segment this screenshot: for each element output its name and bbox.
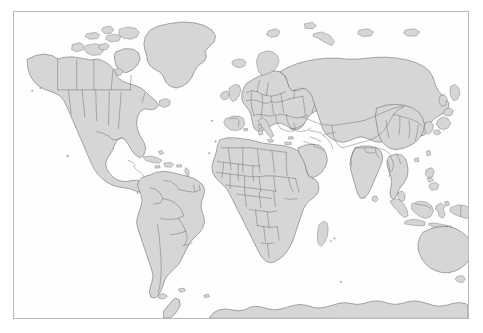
world-map-page — [0, 0, 483, 333]
mauritius-islet — [334, 238, 335, 239]
galapagos-islet — [137, 192, 138, 193]
puerto-rico — [177, 165, 182, 168]
maldives-islet — [364, 197, 365, 198]
cape-verde-islet — [208, 153, 209, 154]
azores-islet — [211, 120, 212, 121]
jamaica — [155, 165, 160, 168]
sardinia — [258, 130, 263, 135]
balearic-islands — [244, 128, 248, 131]
reunion-islet — [330, 240, 331, 241]
map-frame — [13, 11, 469, 319]
aleutian-islet-b — [32, 90, 33, 91]
world-map-svg[interactable] — [14, 12, 468, 318]
kerguelen-islet — [340, 281, 341, 282]
aleutian-islet-a — [40, 87, 41, 88]
hawaii-islet — [67, 155, 69, 157]
hainan — [414, 158, 419, 162]
crete — [285, 142, 292, 145]
canary-islands-islet — [215, 141, 216, 142]
cyprus — [288, 136, 293, 139]
taiwan — [426, 151, 431, 156]
